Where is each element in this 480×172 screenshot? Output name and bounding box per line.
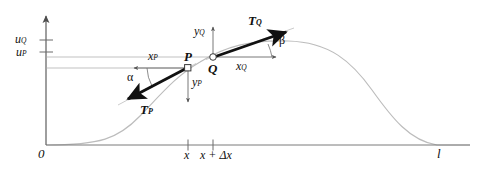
angle-arc-alpha bbox=[147, 68, 152, 86]
x-tick-label-x: x bbox=[184, 149, 189, 161]
component-label-x-q: xQ bbox=[236, 60, 247, 72]
vector-label-t-p: TP bbox=[140, 103, 153, 116]
figure-container: uQ uP 0 l x x + Δx P Q TP TQ xP yP xQ yQ… bbox=[0, 0, 480, 172]
angle-label-alpha: α bbox=[127, 71, 133, 83]
string-displacement-curve bbox=[46, 41, 470, 145]
axis-label-u-q: uQ bbox=[15, 33, 26, 45]
vector-label-t-q: TQ bbox=[248, 14, 262, 27]
point-label-p: P bbox=[184, 50, 192, 63]
component-label-x-p: xP bbox=[148, 50, 158, 62]
axis-label-origin: 0 bbox=[38, 147, 45, 160]
angle-label-beta: β bbox=[279, 34, 285, 46]
tension-vector-t-p bbox=[128, 68, 187, 99]
point-marker-p bbox=[185, 65, 191, 71]
point-label-q: Q bbox=[208, 62, 217, 75]
angle-arc-beta bbox=[268, 44, 272, 57]
axis-label-right-end: l bbox=[437, 147, 441, 160]
component-label-y-q: yQ bbox=[194, 25, 205, 37]
axis-label-u-p: uP bbox=[16, 46, 27, 58]
point-marker-q bbox=[210, 54, 217, 61]
diagram-canvas bbox=[0, 0, 480, 172]
component-label-y-p: yP bbox=[192, 76, 202, 88]
x-tick-label-x-plus-delta-x: x + Δx bbox=[200, 149, 232, 161]
tension-vector-t-q bbox=[214, 32, 286, 57]
